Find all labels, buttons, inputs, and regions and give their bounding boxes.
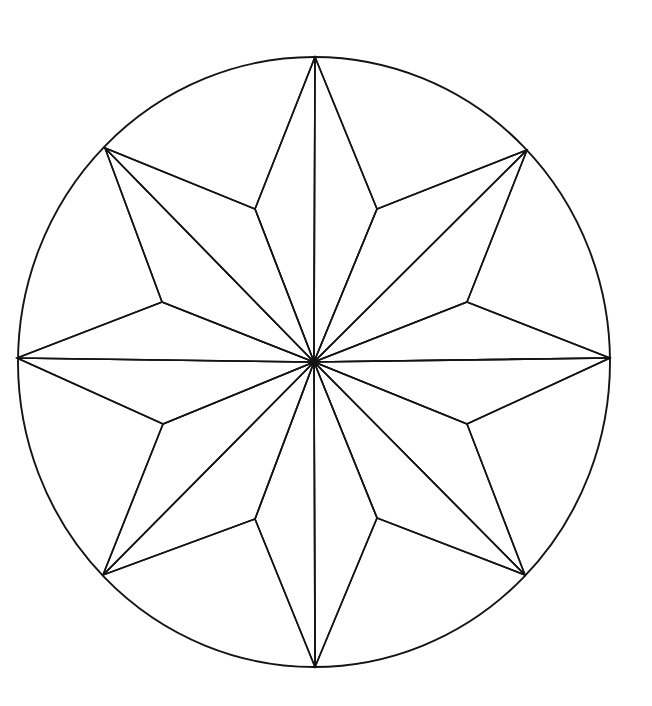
compass-rose-figure: [0, 0, 652, 706]
ray-to-north: [314, 57, 315, 362]
ray-to-south: [314, 362, 315, 667]
